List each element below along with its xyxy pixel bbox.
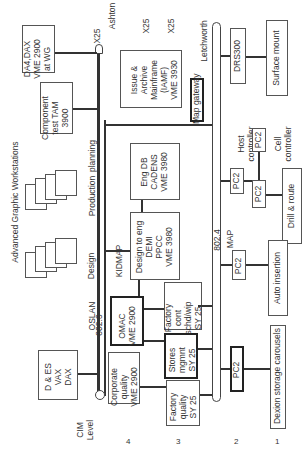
eng-db-text: Eng DB CADENS VME 3980 [139,145,171,199]
workstation-stack-design [25,238,85,298]
connector-top [106,124,216,126]
pc2-auto-text: PC2 [233,254,245,278]
map-gateway-text: Map gateway [191,80,203,124]
dexion-text: Dexion storage carousels [272,326,284,426]
surface-mount-text: Surface mount [271,27,283,89]
cim-level-label: CIM Level [75,415,95,445]
oslan-std-label: 802.3 [94,312,104,338]
level-2: 2 [234,437,238,446]
pc2-cell-text: PC2 [253,182,265,206]
level-1: 1 [275,437,279,446]
issue-archive-text: Issue & Archive Mainframe (IAMF) VME 393… [129,51,173,109]
da4-text: DA4,DAX VME 2900 at WG [22,35,54,83]
auto-insertion-text: Auto insertion [272,246,284,310]
oslan-backbone-2 [104,120,106,396]
drill-route-text: Drill & route [286,176,298,236]
letchworth-label: Letchworth [199,11,211,71]
pc2-dexion-text: PC2 [231,358,243,382]
workstations-label: Advanced Graphic Workstations [10,132,24,272]
drs300-text: DRS300 [232,34,244,78]
group-design-label: Design [86,246,98,286]
workstation-stack-production [25,170,85,230]
group-planning-label: planning [87,133,99,179]
oslan-bus-end [95,390,105,400]
level-3: 3 [176,437,180,446]
map-bus [212,22,221,402]
omac-text: OMAC VME 2900 [117,306,139,346]
ashton-label: Ashton [107,0,119,33]
corporate-quality-text: Corporate quality VME 2900 [109,363,139,411]
d-es-text: D & ES VAX DAX [43,353,73,401]
pc2-host-text: PC2 [231,169,243,193]
x25-label-2: X25 [141,14,153,38]
map-std-label: 802.4 [212,227,222,253]
x25-label-1: X25 [92,24,104,48]
cell-controller-label: Cell controller [273,122,295,166]
stores-mgmt-text: Stores mgmnt SY 25 [167,338,197,382]
kidmap-label: KIDMAP [114,241,126,281]
design-to-eng-text: Design to eng DEMI PPCC VME 3980 [134,214,176,280]
map-label: MAP [225,226,237,252]
pc2-cellupper-text: PC2 [253,128,265,152]
factory-quality-text: Factory quality SY 25 [168,384,198,430]
component-test-text: Component test TAM 3900 [40,92,72,144]
x25-label-3: X25 [166,14,178,38]
level-4: 4 [126,437,130,446]
